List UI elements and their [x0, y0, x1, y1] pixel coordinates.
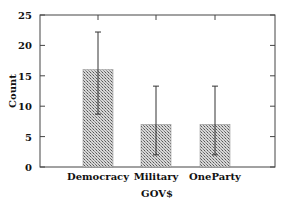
x-category-label: Democracy: [67, 171, 130, 182]
y-tick-label: 0: [25, 162, 32, 173]
x-category-label: Military: [134, 171, 180, 182]
y-axis-title: Count: [7, 74, 18, 108]
x-category-label: OneParty: [189, 171, 242, 182]
y-tick-label: 10: [18, 101, 32, 112]
y-tick-label: 5: [25, 132, 32, 143]
y-tick-label: 20: [18, 40, 32, 51]
y-tick-label: 15: [18, 71, 32, 82]
y-tick-label: 25: [18, 10, 32, 21]
bars: DemocracyMilitaryOneParty: [67, 15, 242, 182]
x-axis-title: GOV$: [141, 188, 173, 199]
bar-chart: 0510152025 DemocracyMilitaryOneParty Cou…: [0, 0, 283, 208]
